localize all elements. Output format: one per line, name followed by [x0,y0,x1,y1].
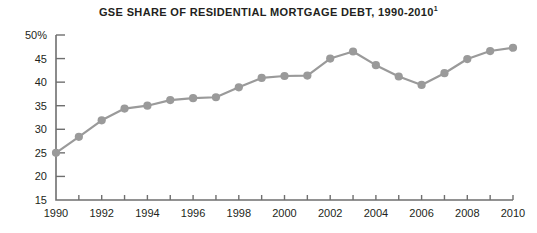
data-point-marker [258,74,266,82]
chart-plot-area: 1520253035404550% 1990199219941996199820… [0,0,537,233]
x-axis-tick-label: 2006 [409,207,433,219]
data-point-marker [143,102,151,110]
y-axis-tick-label: 45 [35,53,47,65]
data-point-marker [189,94,197,102]
data-point-marker [98,116,106,124]
series-markers-gse-share [52,44,517,157]
x-axis-tick-label: 1992 [89,207,113,219]
chart-container: GSE SHARE OF RESIDENTIAL MORTGAGE DEBT, … [0,0,537,233]
data-point-marker [349,47,357,55]
data-point-marker [166,96,174,104]
data-point-marker [486,47,494,55]
data-point-marker [395,72,403,80]
data-point-marker [440,69,448,77]
y-axis-tick-label: 50% [25,29,47,41]
data-point-marker [509,44,517,52]
x-axis-tick-label: 2004 [364,207,388,219]
y-axis-tick-label: 40 [35,76,47,88]
data-point-marker [52,149,60,157]
x-axis-tick-label: 2010 [501,207,525,219]
data-point-marker [418,81,426,89]
data-point-marker [303,71,311,79]
x-axis-tick-label: 1998 [227,207,251,219]
y-axis-tick-label: 20 [35,170,47,182]
x-axis-tick-label: 2000 [272,207,296,219]
y-axis-tick-label: 30 [35,123,47,135]
y-axis-tick-labels: 1520253035404550% [25,29,47,206]
y-axis-tick-label: 35 [35,100,47,112]
axis-lines [56,35,513,200]
y-axis-tick-label: 25 [35,147,47,159]
x-axis-tick-labels: 1990199219941996199820002002200420062008… [44,207,525,219]
series-line-gse-share [56,48,513,153]
data-point-marker [120,104,128,112]
x-axis-tick-label: 2008 [455,207,479,219]
x-axis-tick-label: 1994 [135,207,159,219]
data-point-marker [212,93,220,101]
data-point-marker [280,72,288,80]
x-axis-tick-label: 1990 [44,207,68,219]
data-point-marker [326,54,334,62]
data-point-marker [372,61,380,69]
y-axis-tick-label: 15 [35,194,47,206]
data-point-marker [235,83,243,91]
data-point-marker [75,133,83,141]
x-axis-tick-label: 1996 [181,207,205,219]
x-axis-tick-label: 2002 [318,207,342,219]
data-point-marker [463,55,471,63]
